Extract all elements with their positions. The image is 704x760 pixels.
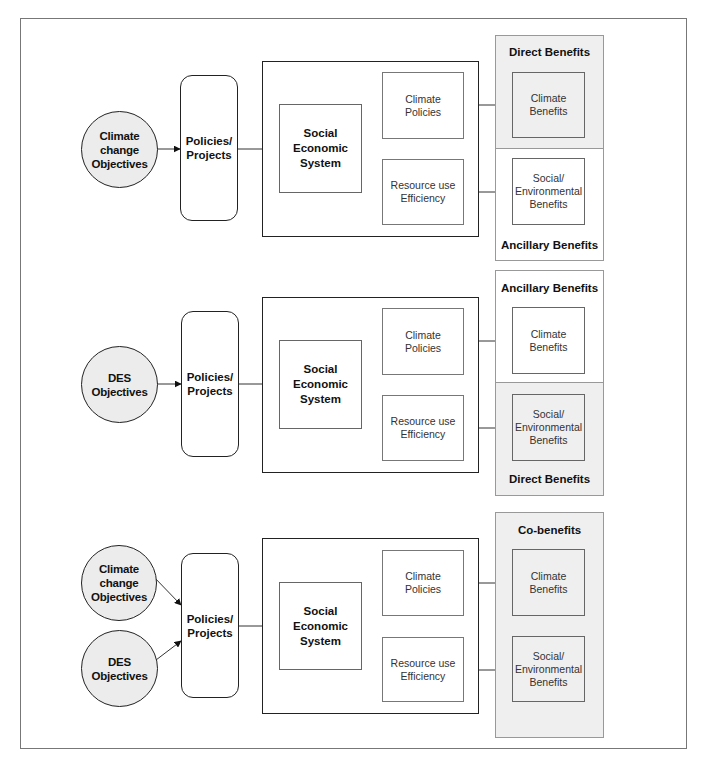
objective-circle-des: DES Objectives (81, 630, 158, 707)
benefits-title-direct: Direct Benefits (496, 46, 603, 58)
objective-circle-des: DES Objectives (81, 346, 158, 423)
benefits-title-ancillary: Ancillary Benefits (496, 282, 603, 294)
climate-benefits-box: Climate Benefits (512, 549, 585, 616)
benefits-title-ancillary: Ancillary Benefits (496, 239, 603, 251)
social-environmental-benefits-box: Social/ Environmental Benefits (512, 636, 585, 702)
social-environmental-benefits-box: Social/ Environmental Benefits (512, 158, 585, 225)
climate-policies-box: Climate Policies (382, 550, 464, 616)
policies-projects-box: Policies/ Projects (181, 553, 239, 698)
co-benefits-section: Co-benefits (495, 512, 604, 738)
social-economic-system-box: Social Economic System (279, 104, 362, 193)
objective-circle-climate-change: Climate change Objectives (81, 545, 157, 621)
policies-projects-box: Policies/ Projects (180, 75, 238, 221)
resource-efficiency-box: Resource use Efficiency (382, 159, 464, 225)
climate-benefits-box: Climate Benefits (512, 72, 585, 138)
resource-efficiency-box: Resource use Efficiency (382, 637, 464, 702)
climate-policies-box: Climate Policies (382, 72, 464, 139)
climate-policies-box: Climate Policies (382, 308, 464, 375)
social-environmental-benefits-box: Social/ Environmental Benefits (512, 394, 585, 461)
objective-circle-climate-change: Climate change Objectives (81, 111, 158, 188)
resource-efficiency-box: Resource use Efficiency (382, 395, 464, 461)
policies-projects-box: Policies/ Projects (181, 311, 239, 457)
social-economic-system-box: Social Economic System (279, 582, 362, 670)
climate-benefits-box: Climate Benefits (512, 307, 585, 374)
benefits-title-co-benefits: Co-benefits (496, 524, 603, 536)
benefits-title-direct: Direct Benefits (496, 473, 603, 485)
social-economic-system-box: Social Economic System (279, 340, 362, 429)
